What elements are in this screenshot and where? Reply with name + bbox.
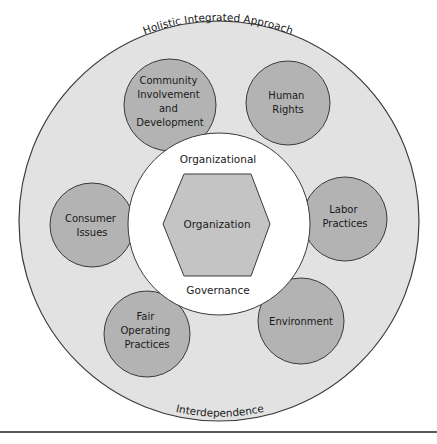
subject-labor-practices: Labor Practices	[303, 177, 387, 261]
subject-human-rights: Human Rights	[246, 61, 330, 145]
iso26000-diagram: Holistic Integrated Approach Interdepend…	[0, 0, 437, 444]
governance-bottom-label: Governance	[186, 284, 249, 296]
organization-label: Organization	[183, 218, 250, 230]
subject-consumer-issues: Consumer Issues	[50, 183, 134, 267]
governance-top-label: Organizational	[180, 153, 256, 165]
svg-text:Environment: Environment	[269, 316, 333, 327]
